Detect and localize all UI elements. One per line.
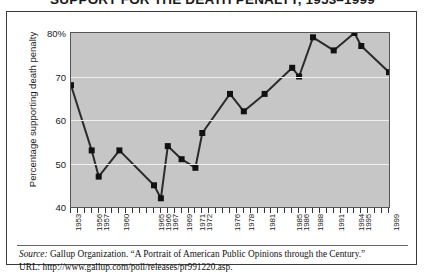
x-tick-mark xyxy=(319,208,320,213)
figure-frame: Percentage supporting death penalty 4050… xyxy=(6,11,417,265)
data-point-1972 xyxy=(199,130,205,136)
x-tick-label-1972: 1972 xyxy=(205,214,214,231)
x-tick-mark xyxy=(326,208,327,213)
data-point-1976 xyxy=(227,91,233,97)
x-tick-mark xyxy=(222,208,223,213)
x-tick-label-1986: 1986 xyxy=(302,214,311,231)
x-tick-mark xyxy=(381,208,382,213)
data-point-1991 xyxy=(331,47,337,53)
y-tick-label-40: 40 xyxy=(20,202,66,213)
data-point-1988 xyxy=(310,34,316,40)
x-tick-mark xyxy=(270,208,271,213)
x-tick-mark xyxy=(215,208,216,213)
source-label: Source: xyxy=(19,249,48,259)
source-url: URL: http://www.gallup.com/poll/releases… xyxy=(19,261,411,272)
x-tick-mark xyxy=(98,208,99,213)
x-tick-mark xyxy=(153,208,154,213)
data-point-1994 xyxy=(351,33,357,36)
x-tick-mark xyxy=(298,208,299,213)
y-tick-label-50: 50 xyxy=(20,158,66,169)
x-tick-mark xyxy=(388,208,389,213)
data-point-1995 xyxy=(358,43,364,49)
x-tick-mark xyxy=(353,208,354,213)
x-tick-mark xyxy=(291,208,292,213)
x-tick-label-1957: 1957 xyxy=(102,214,111,231)
x-tick-label-1999: 1999 xyxy=(392,214,401,231)
data-point-1957 xyxy=(96,174,102,180)
x-tick-mark xyxy=(229,208,230,213)
x-tick-label-1991: 1991 xyxy=(337,214,346,231)
data-point-1969 xyxy=(179,156,185,162)
x-tick-mark xyxy=(367,208,368,213)
x-tick-mark xyxy=(257,208,258,213)
x-tick-mark xyxy=(125,208,126,213)
x-tick-mark xyxy=(312,208,313,213)
x-tick-label-1969: 1969 xyxy=(185,214,194,231)
gridline-50 xyxy=(71,164,389,165)
x-tick-mark xyxy=(360,208,361,213)
gridline-70 xyxy=(71,77,389,78)
x-tick-label-1976: 1976 xyxy=(233,214,242,231)
chart-area: Percentage supporting death penalty 4050… xyxy=(7,12,418,244)
x-tick-mark xyxy=(174,208,175,213)
x-tick-mark xyxy=(139,208,140,213)
x-tick-mark xyxy=(111,208,112,213)
data-point-1960 xyxy=(116,147,122,153)
data-point-1966 xyxy=(158,195,164,201)
data-point-1999 xyxy=(386,69,389,75)
data-point-1985 xyxy=(289,65,295,71)
y-tick-label-80%: 80% xyxy=(20,28,66,39)
footnote-divider xyxy=(17,245,408,246)
gridline-60 xyxy=(71,120,389,121)
x-tick-mark xyxy=(208,208,209,213)
x-tick-label-1981: 1981 xyxy=(268,214,277,231)
x-tick-mark xyxy=(284,208,285,213)
x-tick-mark xyxy=(374,208,375,213)
x-tick-mark xyxy=(305,208,306,213)
x-tick-mark xyxy=(167,208,168,213)
page-title: SUPPORT FOR THE DEATH PENALTY, 1953–1999 xyxy=(0,0,425,8)
x-tick-label-1953: 1953 xyxy=(74,214,83,231)
x-tick-mark xyxy=(70,208,71,213)
data-point-1981 xyxy=(262,91,268,97)
x-tick-mark xyxy=(77,208,78,213)
x-tick-label-1967: 1967 xyxy=(171,214,180,231)
x-tick-mark xyxy=(243,208,244,213)
data-point-1967 xyxy=(165,143,171,149)
x-tick-mark xyxy=(264,208,265,213)
data-point-1978 xyxy=(241,108,247,114)
x-tick-mark xyxy=(347,208,348,213)
x-tick-label-1960: 1960 xyxy=(122,214,131,231)
x-tick-label-1988: 1988 xyxy=(316,214,325,231)
x-tick-mark xyxy=(201,208,202,213)
y-tick-label-70: 70 xyxy=(20,71,66,82)
x-tick-label-1995: 1995 xyxy=(364,214,373,231)
x-tick-mark xyxy=(194,208,195,213)
x-tick-mark xyxy=(160,208,161,213)
series-line xyxy=(71,33,389,198)
data-point-1971 xyxy=(192,165,198,171)
source-text: Gallup Organization. “A Portrait of Amer… xyxy=(48,249,366,259)
data-point-1956 xyxy=(89,147,95,153)
x-tick-mark xyxy=(250,208,251,213)
x-tick-mark xyxy=(118,208,119,213)
data-point-1965 xyxy=(151,182,157,188)
x-tick-mark xyxy=(105,208,106,213)
x-axis-tick-labels: 1953195619571960196519661967196919711972… xyxy=(70,214,390,244)
x-tick-mark xyxy=(132,208,133,213)
x-tick-mark xyxy=(146,208,147,213)
y-axis-title: Percentage supporting death penalty xyxy=(27,22,38,198)
data-point-1953 xyxy=(71,82,74,88)
x-tick-mark xyxy=(277,208,278,213)
x-tick-mark xyxy=(84,208,85,213)
x-axis-tick-marks xyxy=(70,208,390,213)
source-line: Source: Gallup Organization. “A Portrait… xyxy=(19,248,411,261)
x-tick-mark xyxy=(181,208,182,213)
footnote: Source: Gallup Organization. “A Portrait… xyxy=(19,248,411,272)
x-tick-mark xyxy=(333,208,334,213)
x-tick-mark xyxy=(188,208,189,213)
x-tick-mark xyxy=(91,208,92,213)
plot-panel xyxy=(70,32,390,208)
y-tick-label-60: 60 xyxy=(20,115,66,126)
x-tick-mark xyxy=(236,208,237,213)
